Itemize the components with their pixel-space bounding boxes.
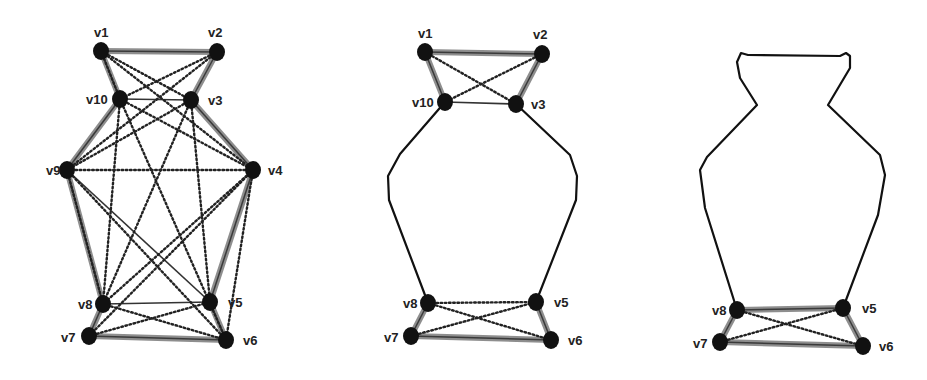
vertex-label: v10: [86, 92, 108, 107]
vertex-v7: [403, 327, 419, 345]
vertex-label: v3: [208, 93, 222, 108]
vertex-label: v8: [403, 296, 417, 311]
vertex-v6: [855, 337, 871, 355]
panel-full-graph: v1v2v10v3v9v4v8v5v7v6: [46, 25, 283, 349]
vase-outline: [700, 53, 885, 310]
vertex-label: v9: [46, 163, 60, 178]
vertex-v10: [112, 90, 128, 108]
vertex-label: v2: [533, 27, 547, 42]
vertex-v7: [712, 333, 728, 351]
vertex-v5: [835, 299, 851, 317]
vertex-label: v2: [208, 25, 222, 40]
vertex-v3: [183, 91, 199, 109]
vertex-label: v4: [268, 163, 283, 178]
vertex-label: v7: [693, 336, 707, 351]
vertex-label: v3: [531, 97, 545, 112]
panel-vase-outline: v8v5v7v6: [693, 53, 893, 355]
vertex-v9: [59, 161, 75, 179]
dotted-edge: [101, 51, 253, 170]
vertex-label: v7: [61, 330, 75, 345]
thin-edge: [445, 102, 516, 104]
dotted-edge: [103, 99, 120, 304]
vertex-label: v6: [243, 333, 257, 348]
thick-edge-core: [191, 100, 253, 170]
vase-outline: [516, 104, 577, 302]
vertex-v2: [534, 45, 550, 63]
vertex-v8: [420, 294, 436, 312]
vertex-label: v10: [412, 95, 434, 110]
vertex-v8: [729, 301, 745, 319]
vertex-label: v8: [712, 303, 726, 318]
vertex-label: v6: [568, 333, 582, 348]
vertex-v4: [245, 161, 261, 179]
vertex-label: v6: [879, 339, 893, 354]
vertex-v3: [508, 95, 524, 113]
dotted-edge: [226, 170, 253, 340]
vertex-label: v5: [862, 301, 876, 316]
vertex-label: v8: [78, 297, 92, 312]
vertex-v2: [209, 43, 225, 61]
dotted-edge: [425, 52, 516, 104]
vertex-v10: [437, 93, 453, 111]
vertex-v1: [417, 43, 433, 61]
vertex-label: v1: [94, 25, 108, 40]
vertex-label: v5: [554, 295, 568, 310]
vertex-v1: [93, 42, 109, 60]
vertex-label: v7: [384, 330, 398, 345]
vertex-label: v1: [418, 26, 432, 41]
vertex-v5: [528, 293, 544, 311]
thin-edge: [103, 302, 210, 304]
dotted-edge: [67, 100, 191, 170]
panel-partial-graph: v1v2v10v3v8v5v7v6: [384, 26, 582, 349]
vertex-v8: [95, 295, 111, 313]
vertex-v6: [218, 331, 234, 349]
dotted-edge: [428, 302, 536, 303]
vase-graph-figure: v1v2v10v3v9v4v8v5v7v6 v1v2v10v3v8v5v7v6 …: [0, 0, 927, 380]
vase-outline: [388, 102, 445, 303]
vertex-v7: [81, 327, 97, 345]
thick-edge-core: [101, 51, 217, 52]
vertex-v5: [202, 293, 218, 311]
vertex-label: v5: [228, 295, 242, 310]
vertex-v6: [543, 331, 559, 349]
